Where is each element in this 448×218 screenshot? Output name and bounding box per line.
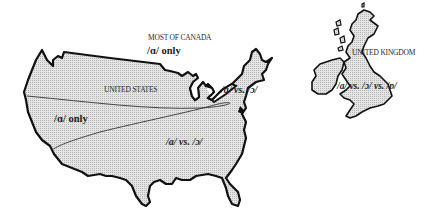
uk-label: UNITED KINGDOM xyxy=(352,49,415,57)
us-landmass xyxy=(24,49,272,206)
great-britain-landmass xyxy=(340,10,392,118)
dialect-map: MOST OF CANADA /ɑ/ only UNITED STATES /ɑ… xyxy=(0,0,448,218)
us-northeast-phoneme-label: /ɑ/ vs. /ɔ/ xyxy=(221,85,257,95)
map-graphic xyxy=(0,0,448,218)
uk-phoneme-label: /ɑ/ vs. /ɔ/ vs. /ɒ/ xyxy=(337,82,397,92)
us-label: UNITED STATES xyxy=(104,86,157,94)
us-south-phoneme-label: /ɑ/ vs. /ɔ/ xyxy=(166,137,202,147)
canada-label: MOST OF CANADA xyxy=(148,34,211,42)
canada-phoneme-label: /ɑ/ only xyxy=(147,46,181,57)
us-west-phoneme-label: /ɑ/ only xyxy=(54,114,88,125)
